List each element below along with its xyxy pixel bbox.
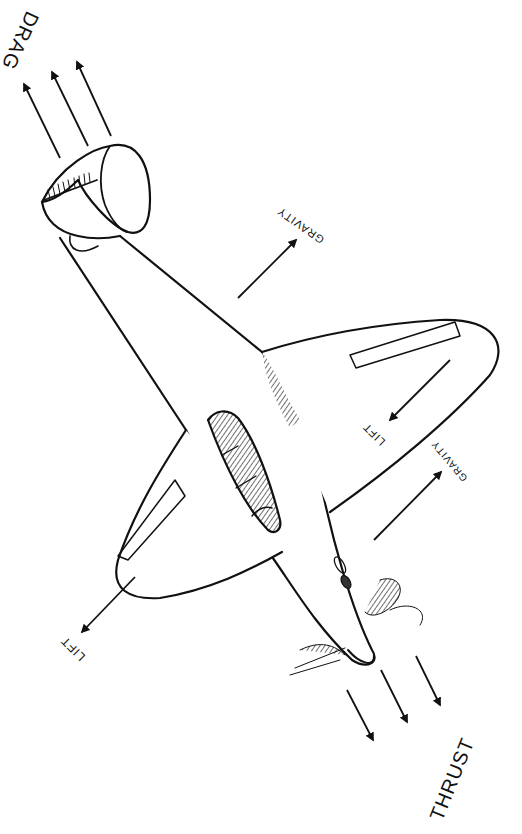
thrust-arrows [347, 656, 440, 740]
forces-of-flight-diagram: DRAG THRUST GRAVITY LIFT GRAVITY LIFT [0, 0, 522, 834]
thrust-label: THRUST [425, 734, 478, 823]
thrust-arrow-2 [381, 670, 407, 722]
lift-left-label: LIFT [58, 634, 88, 664]
gravity-upper-arrow [238, 240, 296, 298]
tail-stabilizer [42, 145, 150, 233]
gravity-upper-label: GRAVITY [275, 205, 327, 246]
drag-label: DRAG [0, 8, 43, 73]
gravity-lower-arrow [374, 472, 441, 540]
thrust-arrow-3 [416, 656, 440, 705]
drag-arrow-1 [24, 84, 60, 158]
propeller-blur [290, 579, 423, 675]
airplane [42, 145, 498, 675]
drag-arrow-3 [77, 62, 111, 136]
thrust-arrow-1 [347, 690, 373, 740]
lift-left-arrow [82, 577, 135, 632]
drag-arrow-2 [52, 72, 88, 146]
drag-arrows [24, 62, 111, 158]
